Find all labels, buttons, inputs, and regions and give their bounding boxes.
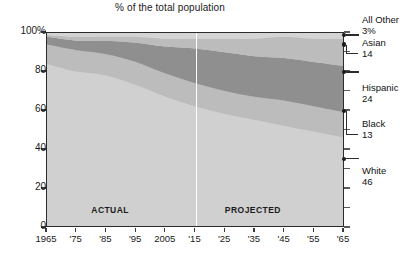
right-axis-tick bbox=[344, 90, 350, 91]
x-tick-label: 1965 bbox=[35, 233, 56, 244]
x-tick-label: '45 bbox=[277, 233, 289, 244]
x-tick-mark bbox=[253, 228, 254, 232]
x-tick-mark bbox=[283, 228, 284, 232]
right-axis-tick bbox=[344, 207, 350, 208]
x-tick-mark bbox=[75, 228, 76, 232]
right-axis-tick bbox=[344, 168, 350, 169]
end-label-elbow-line bbox=[346, 111, 358, 135]
end-label-name: Asian bbox=[362, 37, 386, 48]
end-label-leader-line bbox=[346, 158, 359, 159]
end-label-name: All Other bbox=[362, 14, 399, 25]
right-axis-tick bbox=[344, 226, 350, 227]
end-label-value: 24 bbox=[362, 93, 373, 104]
y-axis: 100%806040200 bbox=[0, 0, 46, 259]
end-label-value: 14 bbox=[362, 48, 373, 59]
end-label-legend: All Other3%Asian14Hispanic24Black13White… bbox=[343, 0, 419, 259]
x-tick-mark bbox=[135, 228, 136, 232]
y-tick-label: 60 bbox=[6, 103, 46, 114]
end-label-value: 13 bbox=[362, 129, 373, 140]
y-tick-label: 20 bbox=[6, 181, 46, 192]
x-tick-mark bbox=[105, 228, 106, 232]
annotation-projected: PROJECTED bbox=[225, 205, 281, 215]
chart-figure: % of the total population 100%806040200 … bbox=[0, 0, 419, 259]
end-label-elbow-line bbox=[346, 45, 358, 54]
end-label-leader-line bbox=[346, 34, 359, 35]
right-axis-tick bbox=[344, 148, 350, 149]
x-tick-label: '25 bbox=[218, 233, 230, 244]
x-tick-mark bbox=[164, 228, 165, 232]
x-tick-label: '75 bbox=[69, 233, 81, 244]
x-tick-label: '15 bbox=[188, 233, 200, 244]
x-tick-label: '55 bbox=[307, 233, 319, 244]
end-label-name: White bbox=[362, 165, 386, 176]
x-tick-mark bbox=[313, 228, 314, 232]
end-label-name: Black bbox=[362, 118, 385, 129]
end-label-leader-line bbox=[346, 71, 359, 72]
y-tick-label: 40 bbox=[6, 142, 46, 153]
x-tick-mark bbox=[224, 228, 225, 232]
x-tick-label: 2005 bbox=[154, 233, 175, 244]
x-tick-label: '95 bbox=[129, 233, 141, 244]
chart-title: % of the total population bbox=[0, 2, 340, 13]
end-label-value: 3% bbox=[362, 25, 376, 36]
annotation-actual: ACTUAL bbox=[91, 205, 129, 215]
y-tick-label: 100% bbox=[6, 25, 46, 36]
right-axis-tick bbox=[344, 187, 350, 188]
x-tick-label: '85 bbox=[99, 233, 111, 244]
x-tick-mark bbox=[45, 228, 46, 232]
plot-area: ACTUAL PROJECTED bbox=[46, 32, 343, 227]
end-label-value: 46 bbox=[362, 176, 373, 187]
y-tick-label: 80 bbox=[6, 64, 46, 75]
x-tick-label: '35 bbox=[248, 233, 260, 244]
x-tick-mark bbox=[194, 228, 195, 232]
actual-projected-divider bbox=[196, 33, 198, 226]
end-label-name: Hispanic bbox=[362, 82, 398, 93]
